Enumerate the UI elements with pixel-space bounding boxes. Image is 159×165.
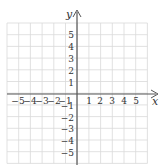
x-axis-label: x (152, 95, 159, 108)
y-tick: −4 (61, 136, 75, 146)
x-tick: 4 (121, 96, 127, 106)
y-tick: 4 (68, 42, 74, 52)
y-axis-label: y (65, 8, 73, 21)
y-tick: 2 (68, 66, 74, 76)
y-tick: 1 (68, 78, 74, 88)
y-tick: −3 (61, 124, 75, 134)
x-tick: 3 (109, 96, 115, 106)
y-tick: 5 (68, 30, 74, 40)
coordinate-plane: x y −5 −4 −3 −2 −1 1 2 3 4 5 5 4 3 2 1 −… (0, 0, 159, 165)
y-tick: 3 (68, 54, 74, 64)
x-tick: 5 (133, 96, 139, 106)
x-tick: 1 (86, 96, 92, 106)
y-tick: −5 (61, 148, 75, 158)
x-tick: 2 (97, 96, 103, 106)
y-tick: −1 (61, 101, 74, 111)
y-tick: −2 (61, 113, 74, 123)
